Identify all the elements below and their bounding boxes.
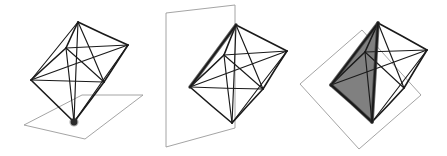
figure-canvas (0, 0, 447, 156)
octahedron-plane-sections-figure: Plane sections of an octahedron Three ha… (0, 0, 447, 156)
tangent-point (71, 119, 78, 126)
